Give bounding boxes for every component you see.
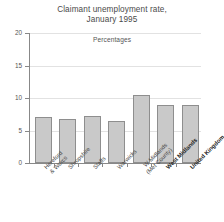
y-tick-label-10: 10 [2,95,22,101]
y-tick-label-15: 15 [2,63,22,69]
chart-title: Claimant unemployment rate, January 1995 [0,5,224,25]
y-tick-20 [25,33,29,34]
y-tick-label-5: 5 [2,128,22,134]
bar-warwicks[interactable] [108,121,125,163]
chart-title-line-1: Claimant unemployment rate, [0,5,224,15]
chart-container: Claimant unemployment rate, January 1995… [0,0,224,222]
y-tick-5 [25,131,29,132]
y-tick-label-20: 20 [2,30,22,36]
bar-series [30,33,201,163]
y-tick-10 [25,98,29,99]
x-axis-labels: Hereford & Worcs Shropshire Staffs Warwi… [0,164,224,222]
chart-title-line-2: January 1995 [0,15,224,25]
bar-hereford-worcs[interactable] [35,117,52,163]
y-tick-15 [25,66,29,67]
